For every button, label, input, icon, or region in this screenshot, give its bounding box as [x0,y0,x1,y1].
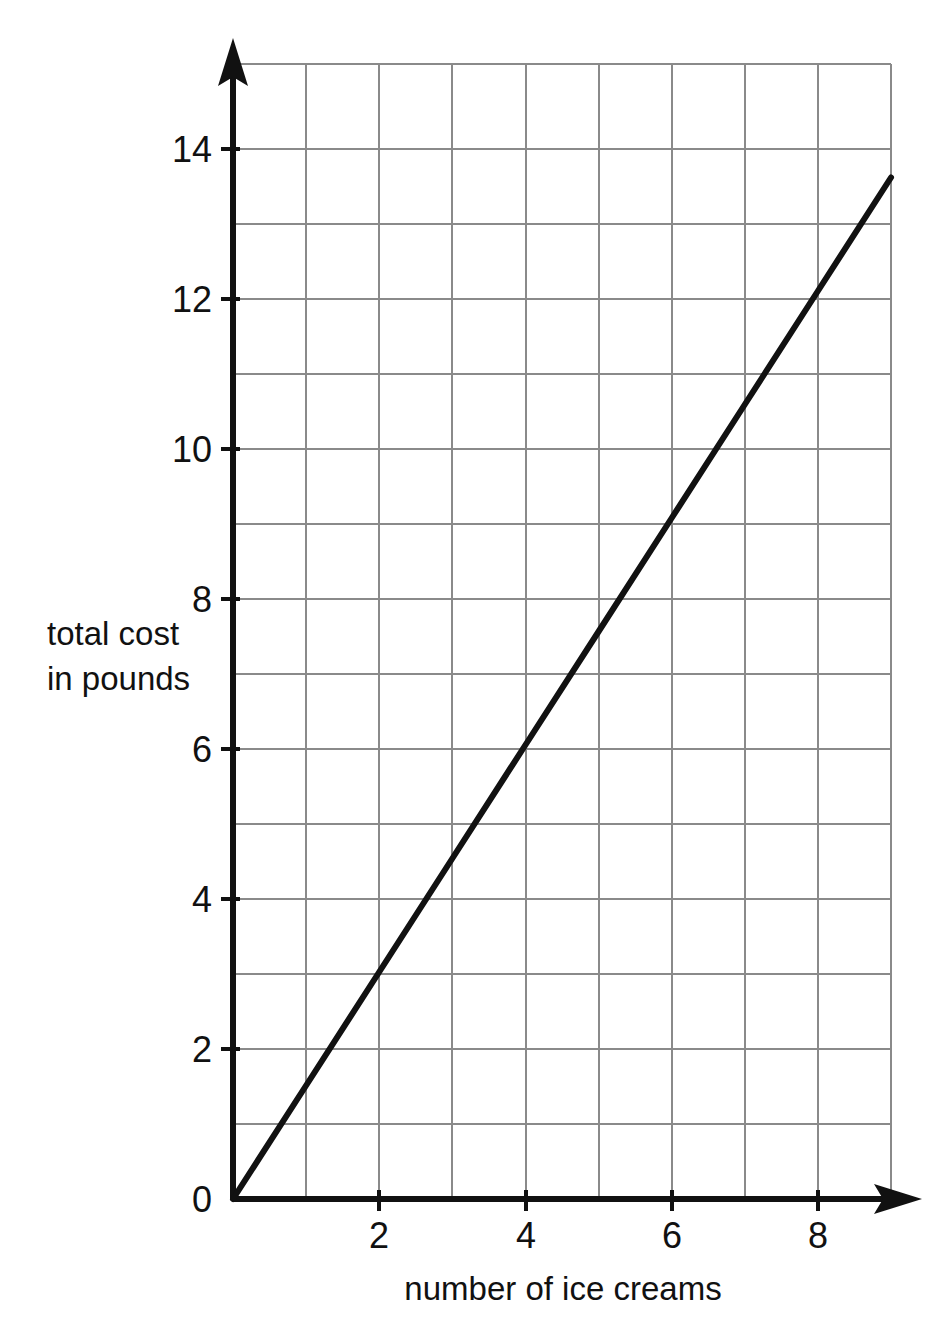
y-axis [218,38,248,1199]
x-tick-label-4: 4 [516,1215,536,1256]
data-series-line [233,178,891,1200]
y-tick-label-6: 6 [192,729,212,770]
x-tick-label-8: 8 [808,1215,828,1256]
graph-figure: 2 4 6 8 10 12 14 0 2 4 6 8 total cost in… [0,0,939,1332]
x-tick-labels: 2 4 6 8 [369,1215,828,1256]
y-tick-label-10: 10 [172,429,212,470]
x-tick-label-6: 6 [662,1215,682,1256]
y-tick-labels: 2 4 6 8 10 12 14 [172,129,212,1070]
line-graph: 2 4 6 8 10 12 14 0 2 4 6 8 total cost in… [0,0,939,1332]
x-tick-label-2: 2 [369,1215,389,1256]
y-tick-label-8: 8 [192,579,212,620]
y-tick-label-4: 4 [192,879,212,920]
y-axis-title-line1: total cost [47,615,179,652]
vertical-gridlines [233,64,891,1199]
y-tick-label-2: 2 [192,1029,212,1070]
y-tick-label-14: 14 [172,129,212,170]
y-axis-title: total cost in pounds [47,615,190,697]
origin-label: 0 [192,1179,212,1220]
x-axis-title: number of ice creams [404,1270,721,1307]
y-axis-title-line2: in pounds [47,660,190,697]
horizontal-gridlines [233,64,891,1199]
y-tick-label-12: 12 [172,279,212,320]
